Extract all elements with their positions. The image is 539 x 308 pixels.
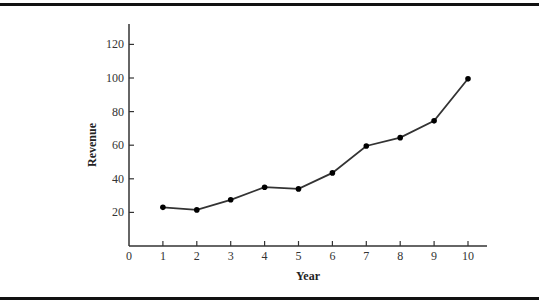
line-chart: 012345678910 20406080100120 Year Revenue	[0, 0, 539, 308]
y-tick-label: 100	[106, 71, 124, 85]
data-point	[228, 197, 234, 203]
y-axis-ticks: 20406080100120	[106, 37, 134, 219]
y-tick-label: 20	[112, 205, 124, 219]
x-tick-label: 5	[296, 249, 302, 263]
x-tick-label: 10	[462, 249, 474, 263]
data-point	[431, 118, 437, 124]
x-tick-label: 4	[262, 249, 268, 263]
y-axis-title: Revenue	[85, 122, 99, 167]
data-point	[194, 207, 200, 213]
x-axis-title: Year	[296, 269, 321, 283]
data-point	[397, 135, 403, 141]
x-tick-label: 8	[397, 249, 403, 263]
x-tick-label: 9	[431, 249, 437, 263]
x-axis-ticks: 012345678910	[126, 241, 474, 263]
x-tick-label: 6	[329, 249, 335, 263]
y-tick-label: 40	[112, 172, 124, 186]
x-tick-label: 0	[126, 249, 132, 263]
x-tick-label: 3	[228, 249, 234, 263]
y-tick-label: 80	[112, 105, 124, 119]
revenue-line	[163, 79, 468, 210]
data-points	[160, 76, 471, 213]
x-tick-label: 7	[363, 249, 369, 263]
y-tick-label: 120	[106, 37, 124, 51]
data-point	[262, 184, 268, 190]
axes	[129, 24, 487, 246]
x-tick-label: 2	[194, 249, 200, 263]
y-tick-label: 60	[112, 138, 124, 152]
data-point	[465, 76, 471, 82]
data-point	[364, 143, 370, 149]
data-point	[330, 170, 336, 176]
data-point	[296, 186, 302, 192]
data-point	[160, 205, 166, 211]
x-tick-label: 1	[160, 249, 166, 263]
